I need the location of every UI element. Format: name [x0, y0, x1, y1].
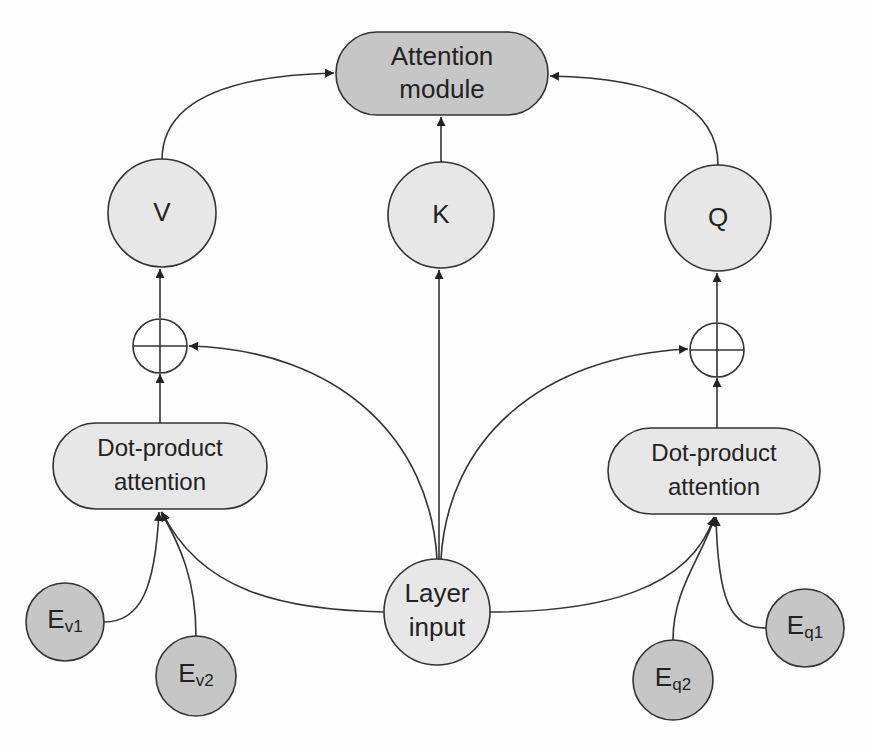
attention-module-node: Attention module	[336, 32, 548, 115]
k-node: K	[388, 162, 494, 268]
dot-right-line1: Dot-product	[651, 439, 777, 466]
edge-eq1-to-dot-right	[716, 517, 766, 628]
ev1-node: Ev1	[26, 583, 104, 661]
q-node: Q	[665, 165, 771, 271]
dot-product-left-node: Dot-product attention	[53, 423, 267, 509]
layer-input-line2: input	[409, 612, 466, 642]
dot-left-line2: attention	[114, 468, 206, 495]
attention-module-line2: module	[399, 74, 484, 104]
edge-ev2-to-dot-left	[161, 512, 196, 636]
dot-left-line1: Dot-product	[97, 434, 223, 461]
ev2-node: Ev2	[156, 636, 236, 716]
layer-input-node: Layer input	[384, 559, 490, 665]
k-label: K	[432, 199, 450, 229]
edge-layer-to-dot-left	[162, 512, 384, 612]
attention-module-line1: Attention	[391, 41, 494, 71]
layer-input-line1: Layer	[404, 578, 469, 608]
edge-v-to-attention	[162, 73, 334, 160]
edge-ev1-to-dot-left	[104, 512, 159, 622]
eq1-node: Eq1	[766, 589, 844, 667]
edge-q-to-attention	[550, 76, 718, 165]
dot-right-line2: attention	[668, 473, 760, 500]
v-node: V	[108, 159, 216, 267]
plus-right-node	[690, 323, 744, 377]
edges	[104, 73, 766, 640]
dot-product-right-node: Dot-product attention	[608, 428, 820, 514]
plus-left-node	[133, 319, 187, 373]
attention-diagram: Attention module V K Q Dot-product atten…	[0, 0, 871, 751]
v-label: V	[153, 197, 171, 227]
q-label: Q	[708, 202, 728, 232]
edge-eq2-to-dot-right	[673, 517, 715, 640]
eq2-node: Eq2	[633, 640, 713, 720]
